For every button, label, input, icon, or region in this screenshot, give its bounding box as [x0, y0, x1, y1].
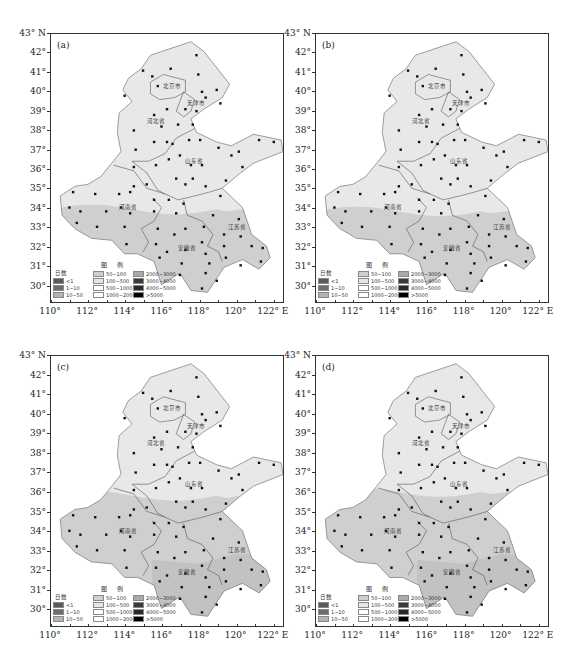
- station-marker: [79, 534, 81, 536]
- station-marker: [217, 469, 219, 471]
- map-panel-d: 43° N42°41°40°39°38°37°36°35°34°33°32°31…: [290, 320, 571, 640]
- legend-label: 100~500: [371, 278, 394, 284]
- station-marker: [431, 251, 433, 253]
- station-marker: [433, 158, 435, 160]
- station-marker: [469, 419, 471, 421]
- station-marker: [208, 262, 210, 264]
- station-marker: [398, 489, 400, 491]
- station-marker: [482, 147, 484, 149]
- station-marker: [153, 464, 155, 466]
- legend-label: 10~50: [331, 292, 348, 298]
- station-marker: [398, 508, 400, 510]
- province-label: 天津市: [452, 422, 470, 430]
- legend-item: 500~1000: [93, 284, 132, 291]
- station-marker: [455, 487, 457, 489]
- province-label: 江苏省: [228, 223, 246, 231]
- legend-label: 50~100: [371, 271, 391, 277]
- station-marker: [177, 123, 179, 125]
- station-marker: [394, 212, 396, 214]
- legend-item: 3000~4000: [133, 277, 176, 284]
- legend-label: <1: [66, 278, 73, 284]
- legend-label: 10~50: [66, 292, 83, 298]
- station-marker: [399, 148, 401, 150]
- province-label: 山东省: [185, 480, 203, 488]
- station-marker: [503, 473, 505, 475]
- legend-label: 100~500: [106, 278, 129, 284]
- legend-item: 2000~3000: [398, 270, 441, 277]
- station-marker: [239, 588, 241, 590]
- station-marker: [155, 164, 157, 166]
- legend-label: 1~10: [331, 285, 345, 291]
- lat-label: 40°: [271, 409, 311, 419]
- station-marker: [411, 183, 413, 185]
- legend-item: >5000: [133, 291, 163, 298]
- station-marker: [464, 139, 466, 141]
- station-marker: [370, 534, 372, 536]
- legend-item: >5000: [133, 615, 163, 622]
- station-marker: [123, 549, 125, 551]
- lat-label: 41°: [271, 67, 311, 77]
- station-marker: [420, 487, 422, 489]
- lat-label: 30°: [271, 281, 311, 291]
- legend-swatch: [53, 609, 64, 615]
- station-marker: [440, 212, 442, 214]
- map-frame: (c)北京市天津市河北省山东省河南省安徽省江苏省图 例日数<11~1010~50…: [50, 355, 284, 627]
- station-marker: [462, 73, 464, 75]
- legend-label: 3000~4000: [411, 602, 441, 608]
- station-marker: [238, 541, 240, 543]
- legend-swatch: [133, 616, 144, 622]
- station-marker: [72, 514, 74, 516]
- legend-label: <1: [331, 602, 338, 608]
- province-label: 河北省: [412, 439, 430, 447]
- station-marker: [179, 477, 181, 479]
- legend-label: 4000~5000: [411, 285, 441, 291]
- legend-swatch: [358, 271, 369, 277]
- province-label: 天津市: [187, 99, 205, 107]
- station-marker: [416, 75, 418, 77]
- lon-label: 118°: [181, 306, 217, 316]
- station-marker: [133, 129, 135, 131]
- legend-label: 3000~4000: [411, 278, 441, 284]
- legend-item: 10~50: [318, 615, 348, 622]
- station-marker: [197, 396, 199, 398]
- legend-swatch: [398, 278, 409, 284]
- station-marker: [503, 150, 505, 152]
- lat-label: 34°: [271, 526, 311, 536]
- station-marker: [390, 567, 392, 569]
- station-marker: [370, 210, 372, 212]
- legend-swatch: [358, 292, 369, 298]
- station-marker: [158, 580, 160, 582]
- station-marker: [460, 432, 462, 434]
- lat-label: 35°: [6, 183, 46, 193]
- station-marker: [201, 565, 203, 567]
- lat-label: 32°: [6, 242, 46, 252]
- station-marker: [390, 243, 392, 245]
- station-marker: [444, 477, 446, 479]
- station-marker: [160, 125, 162, 127]
- legend-swatch: [53, 602, 64, 608]
- legend-swatch: [318, 616, 329, 622]
- station-marker: [181, 262, 183, 264]
- legend-item: <1: [53, 601, 73, 608]
- lat-label: 43° N: [271, 28, 311, 38]
- station-marker: [438, 557, 440, 559]
- legend-label: 4000~5000: [411, 609, 441, 615]
- lat-label: 36°: [6, 487, 46, 497]
- station-marker: [201, 91, 203, 93]
- station-marker: [383, 516, 385, 518]
- station-marker: [216, 89, 218, 91]
- legend-item: 10~50: [318, 291, 348, 298]
- station-marker: [460, 54, 462, 56]
- station-marker: [96, 226, 98, 228]
- station-marker: [411, 506, 413, 508]
- station-marker: [241, 489, 243, 491]
- station-marker: [157, 407, 159, 409]
- station-marker: [219, 518, 221, 520]
- station-marker: [212, 537, 214, 539]
- station-marker: [204, 253, 206, 255]
- province-label: 河北省: [147, 117, 165, 125]
- lat-label: 38°: [6, 125, 46, 135]
- station-marker: [388, 417, 390, 419]
- station-marker: [123, 94, 125, 96]
- legend-swatch: [398, 271, 409, 277]
